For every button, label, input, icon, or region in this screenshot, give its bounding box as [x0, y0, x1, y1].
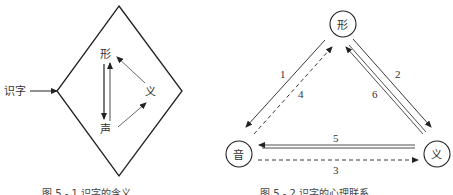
node-meaning: 义	[431, 149, 442, 162]
figure-2: 形 音 义 1 4 2 6 5 3 图 5 - 2 识字的心理联系	[226, 11, 450, 195]
figure-2-caption: 图 5 - 2 识字的心理联系	[260, 187, 369, 195]
arrow-sound-to-meaning	[118, 103, 146, 127]
edge-1	[246, 40, 325, 127]
node-sound: 音	[233, 148, 244, 162]
edge-2-label: 2	[395, 68, 401, 80]
figure-1-caption: 图 5 - 1 识字的含义	[42, 187, 131, 195]
edge-6b	[349, 45, 426, 132]
edge-6-label: 6	[372, 88, 378, 100]
diagram-canvas: 识字 形 声 义 图 5 - 1 识字的含义 形 音 义 1 4 2 6	[0, 0, 453, 195]
edge-3-label: 3	[333, 164, 339, 176]
edge-6a	[346, 47, 423, 134]
node-shape: 形	[100, 48, 111, 61]
node-shape: 形	[337, 19, 348, 32]
node-sound: 声	[100, 122, 111, 136]
edge-4-label: 4	[298, 88, 304, 100]
diamond-frame	[57, 6, 182, 176]
edge-2	[353, 39, 431, 127]
node-meaning: 义	[145, 86, 156, 99]
edge-5-label: 5	[333, 132, 339, 144]
edge-4	[254, 47, 332, 134]
input-label: 识字	[4, 84, 26, 98]
figure-1: 识字 形 声 义 图 5 - 1 识字的含义	[4, 6, 182, 195]
edge-1-label: 1	[280, 68, 286, 80]
arrow-meaning-to-shape	[117, 57, 145, 83]
